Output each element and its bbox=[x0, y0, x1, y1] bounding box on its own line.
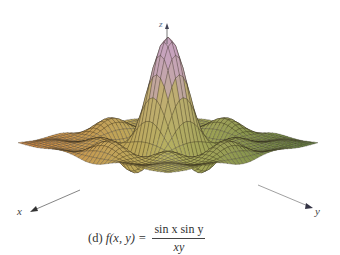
x-axis-arrowhead-icon bbox=[30, 206, 38, 212]
caption-denominator: xy bbox=[174, 239, 185, 255]
caption-function-lhs: f(x, y) = bbox=[106, 231, 147, 246]
surface-plot bbox=[0, 0, 340, 255]
z-axis-arrowhead-icon bbox=[165, 23, 169, 29]
z-axis-label: z bbox=[159, 19, 163, 29]
x-axis bbox=[30, 190, 80, 212]
caption-numerator: sin x sin y bbox=[152, 222, 205, 239]
y-axis bbox=[258, 185, 313, 209]
x-axis-label: x bbox=[17, 205, 22, 217]
y-axis-label: y bbox=[315, 205, 320, 217]
caption-fraction: sin x sin y xy bbox=[152, 222, 205, 255]
caption-prefix: (d) bbox=[88, 231, 103, 246]
y-axis-arrowhead-icon bbox=[305, 203, 313, 209]
figure-caption: (d) f(x, y) = sin x sin y xy bbox=[88, 222, 205, 254]
surface-mesh bbox=[18, 37, 318, 173]
